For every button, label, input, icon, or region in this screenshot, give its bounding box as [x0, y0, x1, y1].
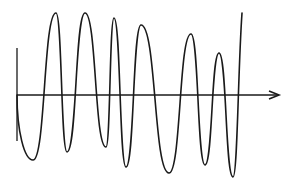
- waveform-diagram: Oscillating waveform with varying freque…: [0, 0, 293, 185]
- waveform-plot: [0, 0, 293, 185]
